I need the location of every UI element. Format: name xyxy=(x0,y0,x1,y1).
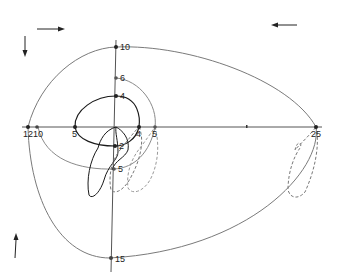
trajectory-diagram: 10 6 4 2 5 15 12 10 5 4 5 25 xyxy=(0,0,340,279)
arrow-left-icon xyxy=(271,23,297,28)
point-v-4 xyxy=(114,94,118,98)
outer-curve xyxy=(28,47,316,258)
label-h-5-right: 5 xyxy=(152,129,157,139)
axis-tick-mark xyxy=(246,125,248,128)
point-v-5 xyxy=(112,167,116,171)
label-v-15: 15 xyxy=(115,254,125,264)
middle-curve xyxy=(38,78,155,169)
point-v-2 xyxy=(113,144,117,148)
point-v-10 xyxy=(114,45,118,49)
arrow-down-icon xyxy=(23,36,28,57)
point-v-15 xyxy=(109,256,113,260)
arrow-up-icon xyxy=(14,233,19,258)
label-h-12: 12 xyxy=(23,129,33,139)
label-h-4: 4 xyxy=(136,129,141,139)
arrow-right-icon xyxy=(37,27,65,32)
label-v-6: 6 xyxy=(120,73,125,83)
label-v-5: 5 xyxy=(118,164,123,174)
vertical-axis xyxy=(111,40,116,272)
point-v-6 xyxy=(114,76,118,80)
label-h-5-left: 5 xyxy=(72,129,77,139)
label-h-10: 10 xyxy=(33,129,43,139)
label-v-2: 2 xyxy=(119,141,124,151)
label-h-25: 25 xyxy=(311,129,321,139)
label-v-4: 4 xyxy=(120,91,125,101)
label-v-10: 10 xyxy=(120,42,130,52)
